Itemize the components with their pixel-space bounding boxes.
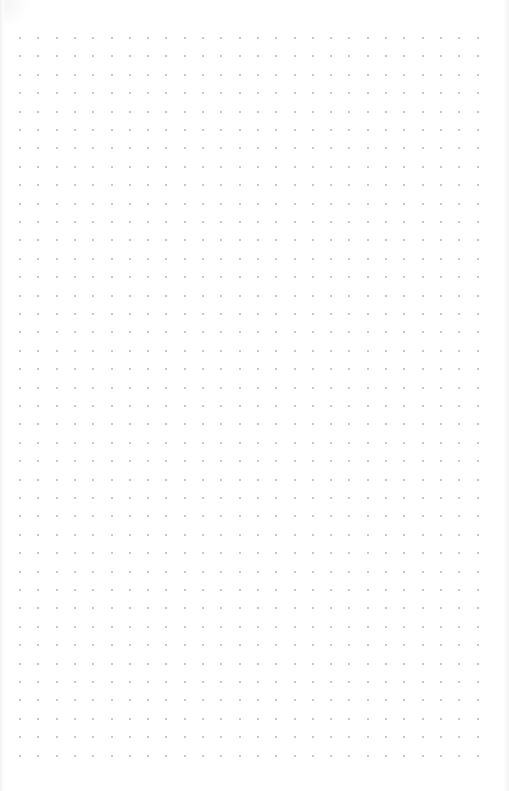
grid-dot bbox=[477, 644, 479, 646]
grid-dot bbox=[37, 184, 39, 186]
grid-dot bbox=[367, 534, 369, 536]
grid-dot bbox=[147, 552, 149, 554]
grid-dot bbox=[37, 644, 39, 646]
grid-dot bbox=[202, 74, 204, 76]
grid-dot bbox=[129, 479, 131, 481]
grid-dot bbox=[37, 626, 39, 628]
grid-dot bbox=[422, 699, 424, 701]
grid-dot bbox=[239, 92, 241, 94]
grid-dot bbox=[312, 479, 314, 481]
grid-dot bbox=[129, 129, 131, 131]
grid-dot bbox=[275, 663, 277, 665]
grid-dot bbox=[184, 534, 186, 536]
grid-dot bbox=[275, 368, 277, 370]
grid-dot bbox=[165, 607, 167, 609]
grid-dot bbox=[147, 55, 149, 57]
grid-dot bbox=[74, 111, 76, 113]
grid-dot bbox=[74, 405, 76, 407]
grid-dot bbox=[422, 736, 424, 738]
grid-dot bbox=[220, 534, 222, 536]
grid-dot bbox=[348, 607, 350, 609]
grid-dot bbox=[19, 387, 21, 389]
grid-dot bbox=[458, 681, 460, 683]
grid-dot bbox=[403, 423, 405, 425]
grid-dot bbox=[257, 166, 259, 168]
grid-dot bbox=[403, 129, 405, 131]
grid-dot bbox=[312, 552, 314, 554]
grid-dot bbox=[275, 405, 277, 407]
grid-dot bbox=[385, 479, 387, 481]
grid-dot bbox=[477, 405, 479, 407]
grid-dot bbox=[56, 239, 58, 241]
grid-dot bbox=[422, 607, 424, 609]
grid-dot bbox=[257, 295, 259, 297]
grid-dot bbox=[202, 663, 204, 665]
grid-dot bbox=[184, 129, 186, 131]
grid-dot bbox=[19, 313, 21, 315]
grid-dot bbox=[239, 479, 241, 481]
grid-dot bbox=[74, 423, 76, 425]
grid-dot bbox=[385, 644, 387, 646]
grid-dot bbox=[165, 350, 167, 352]
grid-dot bbox=[312, 331, 314, 333]
grid-dot bbox=[422, 755, 424, 757]
grid-dot bbox=[275, 239, 277, 241]
grid-dot bbox=[385, 74, 387, 76]
grid-dot bbox=[330, 295, 332, 297]
grid-dot bbox=[129, 663, 131, 665]
grid-dot bbox=[129, 184, 131, 186]
grid-dot bbox=[385, 55, 387, 57]
grid-dot bbox=[19, 111, 21, 113]
grid-dot bbox=[74, 147, 76, 149]
grid-dot bbox=[220, 147, 222, 149]
grid-dot bbox=[458, 460, 460, 462]
grid-dot bbox=[312, 258, 314, 260]
grid-dot bbox=[147, 147, 149, 149]
grid-dot bbox=[37, 571, 39, 573]
grid-dot bbox=[348, 184, 350, 186]
grid-dot bbox=[458, 387, 460, 389]
grid-dot bbox=[422, 644, 424, 646]
grid-dot bbox=[294, 368, 296, 370]
grid-dot bbox=[458, 589, 460, 591]
grid-dot bbox=[202, 718, 204, 720]
grid-dot bbox=[184, 718, 186, 720]
grid-dot bbox=[312, 515, 314, 517]
grid-dot bbox=[184, 92, 186, 94]
grid-dot bbox=[92, 184, 94, 186]
grid-dot bbox=[239, 699, 241, 701]
grid-dot bbox=[312, 276, 314, 278]
grid-dot bbox=[403, 534, 405, 536]
grid-dot bbox=[348, 55, 350, 57]
grid-dot bbox=[330, 313, 332, 315]
grid-dot bbox=[129, 239, 131, 241]
grid-dot bbox=[220, 184, 222, 186]
grid-dot bbox=[385, 663, 387, 665]
grid-dot bbox=[257, 607, 259, 609]
grid-dot bbox=[37, 203, 39, 205]
grid-dot bbox=[477, 663, 479, 665]
grid-dot bbox=[92, 239, 94, 241]
grid-dot bbox=[56, 626, 58, 628]
grid-dot bbox=[56, 718, 58, 720]
grid-dot bbox=[220, 55, 222, 57]
grid-dot bbox=[257, 74, 259, 76]
grid-dot bbox=[37, 166, 39, 168]
grid-dot bbox=[348, 718, 350, 720]
grid-dot bbox=[294, 258, 296, 260]
grid-dot bbox=[92, 736, 94, 738]
grid-dot bbox=[220, 258, 222, 260]
grid-dot bbox=[147, 479, 149, 481]
grid-dot bbox=[257, 571, 259, 573]
grid-dot bbox=[440, 423, 442, 425]
grid-dot bbox=[275, 552, 277, 554]
grid-dot bbox=[37, 515, 39, 517]
grid-dot bbox=[367, 258, 369, 260]
grid-dot bbox=[129, 276, 131, 278]
grid-dot bbox=[202, 589, 204, 591]
grid-dot bbox=[220, 515, 222, 517]
grid-dot bbox=[440, 607, 442, 609]
grid-dot bbox=[239, 129, 241, 131]
grid-dot bbox=[312, 129, 314, 131]
grid-dot bbox=[477, 718, 479, 720]
